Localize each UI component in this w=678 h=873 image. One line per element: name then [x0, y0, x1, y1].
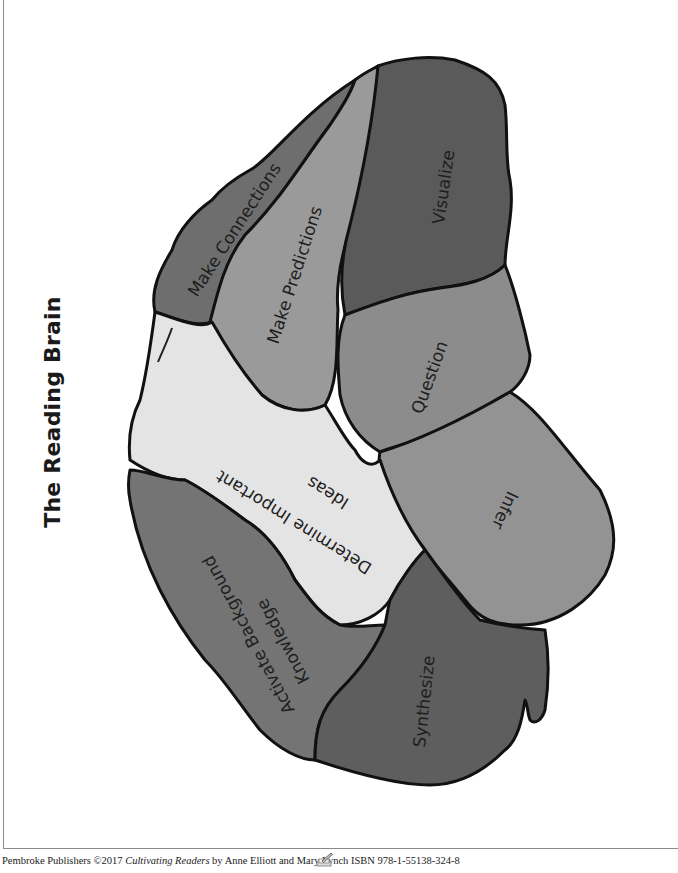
footer-credit: Pembroke Publishers ©2017 Cultivating Re… — [2, 855, 460, 866]
footer-publisher: Pembroke Publishers ©2017 — [2, 855, 125, 866]
reading-brain-diagram: Make Connections Make Predictions Visual… — [0, 0, 678, 850]
footer-authors-isbn: by Anne Elliott and Mary Lynch ISBN 978-… — [209, 855, 459, 866]
printer-pencil-icon — [316, 852, 334, 868]
footer-book-title: Cultivating Readers — [125, 855, 209, 866]
